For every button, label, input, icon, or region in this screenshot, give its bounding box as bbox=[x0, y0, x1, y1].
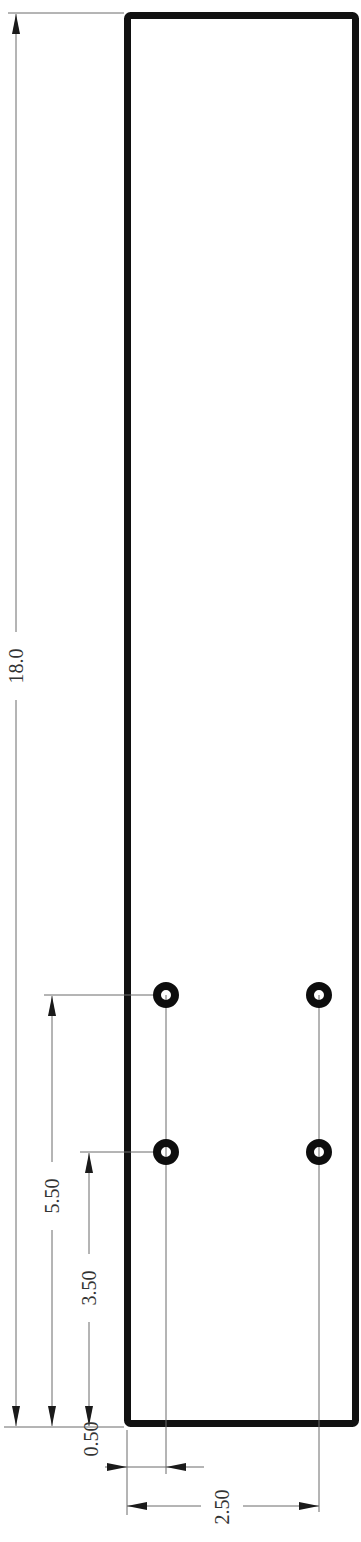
arrow-right-icon bbox=[299, 1502, 319, 1510]
arrow-right-icon bbox=[107, 1463, 127, 1471]
dimension-upper-hole-offset: 5.50 bbox=[41, 996, 63, 1426]
dimension-hole-edge-offset: 0.50 bbox=[80, 1422, 204, 1472]
arrow-up-icon bbox=[85, 1153, 93, 1173]
dimension-lower-hole-offset: 3.50 bbox=[78, 1153, 100, 1426]
technical-drawing: 18.0 5.50 3.50 0.50 2.50 bbox=[0, 0, 361, 1542]
arrow-up-icon bbox=[48, 996, 56, 1016]
part-outline bbox=[128, 16, 356, 1424]
arrow-left-icon bbox=[127, 1502, 147, 1510]
dimension-label-18: 18.0 bbox=[5, 649, 27, 684]
dimension-label-0-50: 0.50 bbox=[80, 1422, 102, 1457]
arrow-up-icon bbox=[12, 14, 20, 34]
dimension-hole-spacing: 2.50 bbox=[127, 1490, 319, 1525]
arrow-left-icon bbox=[166, 1463, 186, 1471]
dimension-overall-length: 18.0 bbox=[5, 14, 27, 1426]
dimension-label-3-50: 3.50 bbox=[78, 1271, 100, 1306]
dimension-label-2-50: 2.50 bbox=[211, 1490, 233, 1525]
dimension-label-5-50: 5.50 bbox=[41, 1179, 63, 1214]
arrow-down-icon bbox=[48, 1406, 56, 1426]
arrow-down-icon bbox=[12, 1406, 20, 1426]
